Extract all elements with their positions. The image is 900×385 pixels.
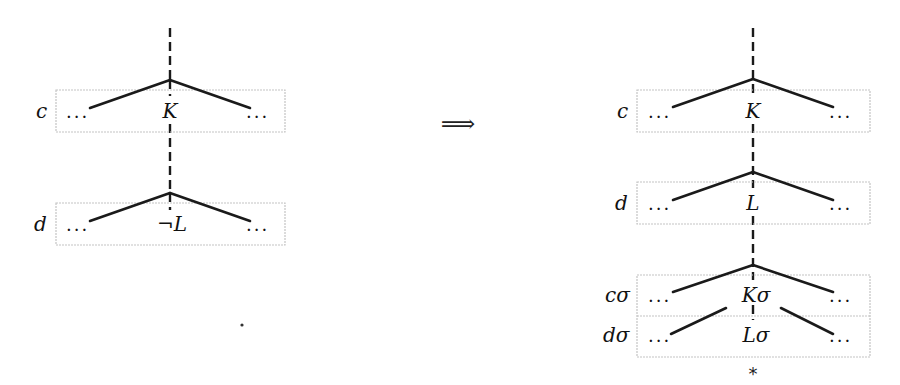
- branch-left: [671, 308, 726, 334]
- left-dots: ...: [648, 101, 671, 122]
- right-clause-d: d ... L ...: [615, 172, 870, 224]
- right-clause-c: c ... K ...: [617, 79, 870, 132]
- right-dots: ...: [246, 214, 269, 235]
- left-dots: ...: [648, 193, 671, 214]
- right-clause-d-sigma: dσ ... Lσ ...: [603, 308, 852, 347]
- clause-label: d: [34, 212, 47, 236]
- right-clause-c-sigma: cσ ... Kσ ...: [605, 265, 852, 307]
- right-tree: c ... K ... d ... L ... cσ ... Kσ: [603, 28, 870, 384]
- left-dots: ...: [66, 101, 89, 122]
- literal: K: [745, 99, 762, 123]
- branch-right: [781, 308, 833, 334]
- literal: ¬L: [157, 212, 187, 236]
- branch-left: [90, 80, 170, 108]
- clause-label: dσ: [603, 323, 631, 347]
- literal: K: [162, 99, 179, 123]
- clause-label: d: [615, 191, 628, 215]
- left-tree: c ... K ... d ... ¬L ...: [34, 28, 285, 327]
- closed-branch-marker: *: [749, 363, 758, 384]
- literal: Kσ: [741, 283, 772, 307]
- left-dots: ...: [648, 325, 671, 346]
- implies-arrow: ⟹: [441, 110, 475, 138]
- right-dots: ...: [829, 285, 852, 306]
- right-closure-block: cσ ... Kσ ... dσ ... Lσ ...: [603, 265, 870, 357]
- right-dots: ...: [829, 101, 852, 122]
- branch-right: [753, 172, 833, 200]
- branch-right: [753, 79, 833, 107]
- right-dots: ...: [246, 101, 269, 122]
- literal: Lσ: [742, 323, 771, 347]
- tableau-diagram: c ... K ... d ... ¬L ... ⟹ c: [0, 0, 900, 385]
- clause-label: c: [36, 99, 47, 123]
- stray-dot: [240, 323, 243, 326]
- left-clause-c: c ... K ...: [36, 80, 285, 132]
- right-dots: ...: [829, 325, 852, 346]
- branch-left: [673, 172, 753, 200]
- left-clause-d: d ... ¬L ...: [34, 193, 285, 245]
- right-dots: ...: [829, 193, 852, 214]
- literal: L: [745, 191, 759, 215]
- branch-left: [673, 79, 753, 107]
- clause-label: c: [617, 99, 628, 123]
- branch-right: [170, 80, 250, 108]
- left-dots: ...: [66, 214, 89, 235]
- left-dots: ...: [648, 285, 671, 306]
- clause-label: cσ: [605, 283, 631, 307]
